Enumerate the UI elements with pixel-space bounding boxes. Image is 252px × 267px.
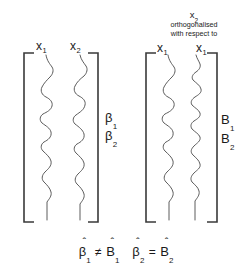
trace-left-x1 [40,55,53,220]
equation-part-1: ˆ β1 ≠ ˆ B1 [79,243,120,259]
B1-hat: ˆ B1 [106,243,119,259]
hat-accent-B1: ˆ [111,237,115,248]
equation-part-2: ˆ β2 = ˆ B2 [132,243,173,259]
trace-left-x2 [73,55,87,220]
trace-right-x2-orthogonalised [191,55,201,220]
beta1-hat: ˆ β1 [79,243,91,259]
trace-right-x1 [162,55,175,220]
right-panel-open-bracket [146,53,156,222]
left-panel-close-bracket [88,53,98,222]
right-panel-close-bracket [207,53,217,222]
orthogonalisation-figure: x1 x2 β1 β2 x2 orthogonalised with respe… [0,0,252,267]
hat-accent-beta1: ˆ [82,237,86,248]
operator-not-equal: ≠ [94,245,103,259]
left-panel-open-bracket [24,53,34,222]
hat-accent-beta2: ˆ [136,237,140,248]
operator-equal: = [148,245,157,259]
beta2-hat: ˆ β2 [132,243,144,259]
B2-hat: ˆ B2 [160,243,173,259]
coefficient-comparison-equation: ˆ β1 ≠ ˆ B1 ˆ β2 = ˆ B2 [0,243,252,259]
trace-canvas [0,0,252,267]
hat-accent-B2: ˆ [165,237,169,248]
